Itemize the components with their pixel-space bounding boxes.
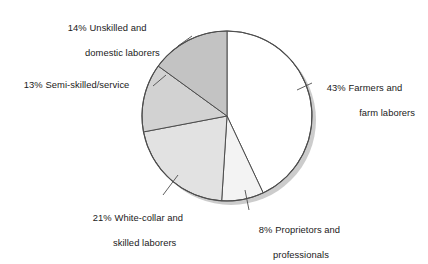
pie-label-semi-skilled-name-line1: Semi-skilled/service xyxy=(46,79,130,90)
pie-label-farmers-name-line2: farm laborers xyxy=(316,107,415,119)
pie-label-semi-skilled: 13%Semi-skilled/service xyxy=(13,67,129,104)
pie-label-farmers-name-line1: Farmers and xyxy=(349,82,403,93)
pie-label-farmers: 43%Farmers and farm laborers xyxy=(316,70,415,144)
pie-label-farmers-percent: 43% xyxy=(327,82,346,93)
pie-label-proprietors-name-line1: Proprietors and xyxy=(275,224,340,235)
pie-label-unskilled-name-line1: Unskilled and xyxy=(90,22,147,33)
pie-slices-group xyxy=(142,31,312,201)
pie-label-white-collar-name-line1: White-collar and xyxy=(115,212,184,223)
pie-label-white-collar-name-line2: skilled laborers xyxy=(82,237,183,249)
pie-label-unskilled-name-line2: domestic laborers xyxy=(57,47,160,59)
pie-label-proprietors-name-line2: professionals xyxy=(248,249,340,261)
pie-label-proprietors: 8%Proprietors and professionals xyxy=(248,212,340,264)
pie-label-unskilled-percent: 14% xyxy=(68,22,87,33)
pie-label-white-collar: 21%White-collar and skilled laborers xyxy=(82,200,183,264)
pie-label-proprietors-percent: 8% xyxy=(259,224,273,235)
pie-label-white-collar-percent: 21% xyxy=(93,212,112,223)
pie-label-semi-skilled-percent: 13% xyxy=(24,79,43,90)
